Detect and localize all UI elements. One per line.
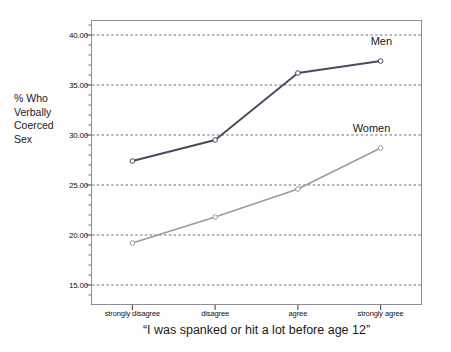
chart-figure: % Who Verbally Coerced Sex 15.0020.0025.… xyxy=(0,0,451,352)
data-point-women-1 xyxy=(213,215,218,220)
x-tick-label-disagree: disagree xyxy=(201,309,229,318)
data-series xyxy=(130,59,383,246)
gridlines xyxy=(92,35,421,285)
data-point-men-1 xyxy=(213,138,218,143)
plot-canvas xyxy=(0,0,451,352)
x-tick-label-agree: agree xyxy=(289,309,308,318)
y-axis-ticks xyxy=(86,25,91,295)
data-point-men-3 xyxy=(378,59,383,64)
series-label-men: Men xyxy=(371,35,392,47)
series-label-women: Women xyxy=(353,122,391,134)
series-line-men xyxy=(132,61,380,161)
data-point-men-0 xyxy=(130,159,135,164)
data-point-women-0 xyxy=(130,241,135,246)
data-point-men-2 xyxy=(296,71,301,76)
series-line-women xyxy=(132,148,380,243)
data-point-women-2 xyxy=(296,187,301,192)
x-tick-label-strongly-agree: strongly agree xyxy=(358,309,404,318)
x-axis-title: “I was spanked or hit a lot before age 1… xyxy=(91,323,422,337)
x-tick-label-strongly-disagree: strongly disagree xyxy=(105,309,160,318)
data-point-women-3 xyxy=(378,146,383,151)
